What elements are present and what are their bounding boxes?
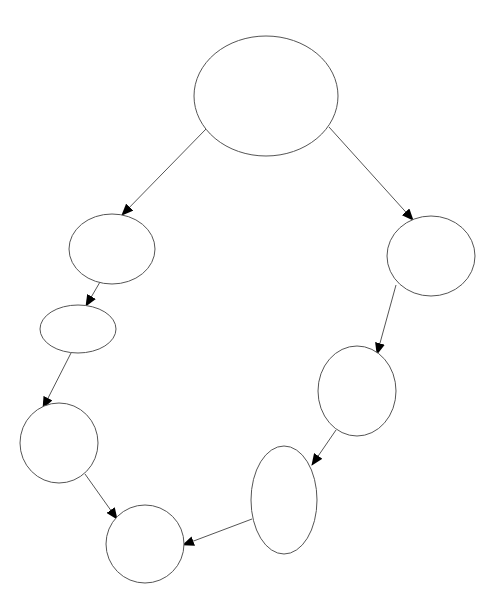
edge-n0-to-n5: [329, 127, 413, 220]
node-ellipse: [69, 214, 155, 284]
node-ellipse: [40, 305, 116, 353]
node-ellipse: [387, 216, 475, 296]
edge-n6-to-n7: [312, 430, 336, 465]
edge-n2-to-n3: [43, 353, 71, 408]
edge-n5-to-n6: [377, 285, 396, 354]
node-n0: [194, 36, 338, 156]
edge-n0-to-n1: [122, 129, 206, 215]
directed-graph: [0, 0, 498, 613]
node-n4: [106, 505, 184, 583]
nodes-layer: [20, 36, 475, 583]
node-n7: [251, 446, 317, 554]
node-n3: [20, 403, 98, 483]
node-ellipse: [194, 36, 338, 156]
node-ellipse: [20, 403, 98, 483]
node-n1: [69, 214, 155, 284]
node-ellipse: [106, 505, 184, 583]
node-n5: [387, 216, 475, 296]
edge-n3-to-n4: [85, 474, 117, 519]
node-ellipse: [318, 346, 396, 436]
edge-n7-to-n4: [183, 519, 252, 545]
edge-n1-to-n2: [86, 282, 100, 306]
node-ellipse: [251, 446, 317, 554]
node-n2: [40, 305, 116, 353]
diagram-canvas: [0, 0, 498, 613]
node-n6: [318, 346, 396, 436]
